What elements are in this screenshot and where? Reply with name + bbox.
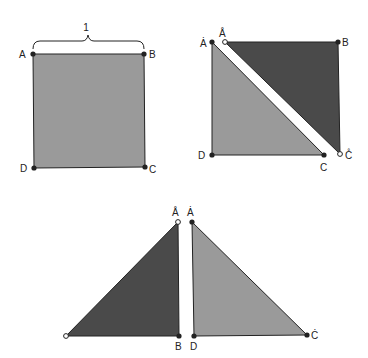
vertex-c-dot-point — [304, 332, 309, 337]
side-length-label: 1 — [83, 22, 89, 33]
vertex-a-ring-label: Å — [219, 27, 226, 39]
vertex-c-ring-point — [64, 334, 69, 339]
vertex-a-point — [30, 51, 35, 56]
vertex-b-point — [176, 333, 181, 338]
vertex-d-point — [191, 333, 196, 338]
vertex-b-label: B — [149, 49, 156, 60]
dark-triangle-left — [66, 222, 179, 336]
vertex-c-label: C — [320, 162, 327, 173]
vertex-b-label: B — [175, 341, 182, 352]
vertex-c-ring-point — [338, 152, 343, 157]
vertex-d-point — [31, 165, 36, 170]
vertex-a-dot-point — [209, 39, 214, 44]
vertex-b-point — [141, 51, 146, 56]
vertex-d-label: D — [20, 163, 27, 174]
vertex-c-ring-label: C̊ — [345, 148, 352, 161]
unit-square-panel: 1 A B C D — [19, 22, 156, 175]
vertex-a-label: A — [19, 49, 26, 60]
vertex-d-label: D — [190, 341, 197, 352]
vertex-a-dot-point — [189, 219, 194, 224]
vertex-b-label: B — [342, 37, 349, 48]
light-triangle-right — [192, 222, 307, 336]
cut-square-panel: Ȧ Å B D C C̊ — [198, 27, 352, 173]
side-length-brace — [33, 35, 144, 49]
vertex-d-point — [209, 152, 214, 157]
vertex-c-label: C — [149, 164, 156, 175]
vertex-a-ring-point — [176, 220, 181, 225]
vertex-c-dot-label: Ċ — [311, 329, 318, 341]
vertex-d-label: D — [198, 150, 205, 161]
vertex-a-ring-point — [223, 40, 228, 45]
vertex-b-point — [335, 39, 340, 44]
geometry-figure: 1 A B C D Ȧ Å B D C C̊ Å — [0, 0, 368, 358]
vertex-a-ring-label: Å — [172, 206, 179, 218]
square-abcd — [33, 54, 145, 168]
vertex-c-point — [321, 152, 326, 157]
vertex-c-point — [142, 164, 147, 169]
rearranged-triangles-panel: Å Ȧ B D Ċ — [64, 206, 319, 352]
vertex-a-dot-label: Ȧ — [200, 37, 207, 49]
vertex-a-dot-label: Ȧ — [187, 206, 194, 218]
